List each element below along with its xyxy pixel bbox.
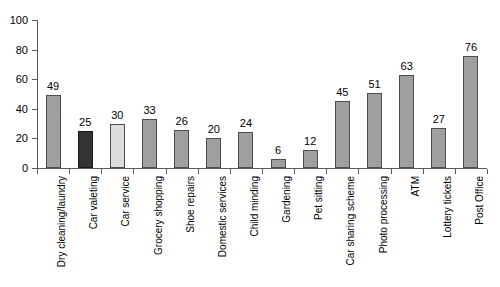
- category-label: Car sharing scheme: [346, 176, 356, 265]
- category-label: Car valeting: [89, 176, 99, 229]
- category-label: Car service: [121, 176, 131, 227]
- bar: [142, 119, 157, 168]
- category-label: Photo processing: [379, 176, 389, 253]
- y-axis-tick-label: 20: [16, 133, 28, 144]
- bar: [206, 138, 221, 168]
- bar: [367, 93, 382, 168]
- x-axis-tick: [166, 169, 167, 174]
- x-axis-tick: [37, 169, 38, 174]
- bar-value-label: 25: [70, 117, 100, 128]
- x-axis-tick: [230, 169, 231, 174]
- bar: [463, 56, 478, 168]
- bar: [335, 101, 350, 168]
- x-axis-tick: [326, 169, 327, 174]
- x-axis-tick: [101, 169, 102, 174]
- bar-value-label: 20: [199, 124, 229, 135]
- category-label: Gardening: [282, 176, 292, 223]
- bar-value-label: 33: [135, 105, 165, 116]
- bar-value-label: 12: [295, 136, 325, 147]
- bar-value-label: 63: [392, 61, 422, 72]
- category-label: Pet sitting: [314, 176, 324, 220]
- x-axis-tick: [133, 169, 134, 174]
- category-label: Child minding: [250, 176, 260, 237]
- bar: [238, 132, 253, 168]
- category-label: ATM: [411, 176, 421, 196]
- y-axis-tick-label: 0: [22, 163, 28, 174]
- bar-value-label: 45: [327, 87, 357, 98]
- bar: [78, 131, 93, 168]
- x-axis-tick: [294, 169, 295, 174]
- category-label: Shoe repairs: [186, 176, 196, 233]
- category-label: Post Office: [475, 176, 485, 225]
- bar: [431, 128, 446, 168]
- bar-chart: 020406080100 492530332620246124551632776…: [0, 0, 500, 287]
- bar-value-label: 26: [167, 116, 197, 127]
- bar-value-label: 30: [102, 110, 132, 121]
- y-axis-tick-label: 100: [10, 15, 28, 26]
- bar-value-label: 27: [424, 114, 454, 125]
- x-axis-tick: [487, 169, 488, 174]
- x-axis-tick: [391, 169, 392, 174]
- bar: [303, 150, 318, 168]
- x-axis-tick: [69, 169, 70, 174]
- x-axis-tick: [358, 169, 359, 174]
- bar-value-label: 24: [231, 118, 261, 129]
- bar: [399, 75, 414, 168]
- bar: [174, 130, 189, 168]
- y-axis-tick-label: 40: [16, 104, 28, 115]
- x-axis-tick: [423, 169, 424, 174]
- category-label: Grocery shopping: [154, 176, 164, 255]
- plot-area: [37, 20, 487, 168]
- bar-value-label: 76: [456, 42, 486, 53]
- category-label: Dry cleaning/laundry: [57, 176, 67, 267]
- bar: [110, 124, 125, 168]
- bar-value-label: 51: [360, 79, 390, 90]
- bar-value-label: 6: [263, 145, 293, 156]
- y-axis-tick-label: 80: [16, 45, 28, 56]
- bar: [271, 159, 286, 168]
- x-axis-tick: [455, 169, 456, 174]
- category-label: Lottery tickets: [443, 176, 453, 238]
- x-axis-tick: [198, 169, 199, 174]
- bar-value-label: 49: [38, 81, 68, 92]
- x-axis-tick: [262, 169, 263, 174]
- y-axis-tick-label: 60: [16, 74, 28, 85]
- bar: [46, 95, 61, 168]
- category-label: Domestic services: [218, 176, 228, 257]
